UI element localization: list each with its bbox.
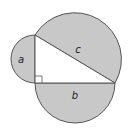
label-c: c [75,44,81,55]
label-b: b [72,90,78,101]
label-a: a [18,54,24,65]
pythagorean-semicircles-diagram: a b c [0,0,129,131]
semicircle-b [35,83,115,123]
